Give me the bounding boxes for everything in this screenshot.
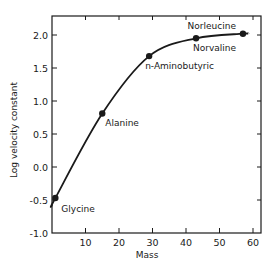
y-tick-label: 2.0 (33, 30, 48, 41)
label-n-aminobutyric: n-Aminobutyric (145, 61, 214, 71)
data-point-norleucine (240, 30, 246, 36)
data-point-n-aminobutyric (146, 53, 152, 59)
data-curve (51, 33, 249, 207)
label-norleucine: Norleucine (188, 21, 237, 31)
data-points (52, 30, 246, 201)
y-tick-label: 0.5 (33, 129, 48, 140)
x-tick-label: 30 (146, 237, 158, 248)
y-tick-label: 1.0 (33, 96, 48, 107)
point-labels: GlycineAlaninen-AminobutyricNorvalineNor… (61, 21, 236, 214)
x-axis-label: Mass (136, 250, 159, 260)
y-axis-label: Log velocity constant (9, 81, 19, 178)
chart: 102030405060 -1.0-0.50.00.51.01.52.0 Gly… (0, 0, 276, 273)
y-tick-label: 1.5 (33, 63, 48, 74)
y-tick-label: -1.0 (29, 228, 48, 239)
y-tick-label: 0.0 (33, 162, 48, 173)
y-tick-label: -0.5 (29, 195, 48, 206)
x-tick-label: 20 (113, 237, 125, 248)
x-tick-label: 40 (180, 237, 192, 248)
data-point-alanine (99, 110, 105, 116)
x-tick-label: 50 (213, 237, 225, 248)
label-norvaline: Norvaline (193, 43, 236, 53)
x-tick-label: 60 (247, 237, 259, 248)
label-alanine: Alanine (105, 118, 139, 128)
x-tick-label: 10 (79, 237, 91, 248)
label-glycine: Glycine (61, 204, 95, 214)
data-point-glycine (52, 195, 58, 201)
data-point-norvaline (193, 35, 199, 41)
